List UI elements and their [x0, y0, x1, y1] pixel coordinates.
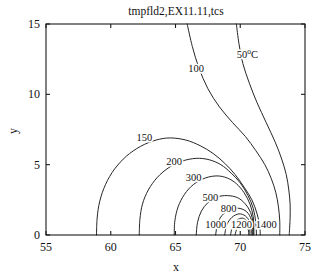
y-tick-label-10: 10	[28, 87, 40, 101]
axis-titles: x y	[6, 128, 179, 274]
contour-label-150: 150	[137, 132, 153, 143]
y-tick-label-15: 15	[28, 17, 40, 31]
axis-ticks	[46, 24, 305, 235]
contour-label-50-value: 50	[237, 49, 248, 60]
contour-label-300: 300	[186, 172, 202, 183]
contour-labels-layer: 50oC50oC10010015015020020030030050050080…	[137, 47, 277, 230]
contour-lines-layer	[97, 24, 291, 235]
chart-title: tmpfld2,EX11.11,tcs	[128, 5, 224, 18]
contour-plot-figure: tmpfld2,EX11.11,tcs 5560657075051015 50o…	[0, 0, 322, 278]
y-tick-label-0: 0	[34, 228, 40, 242]
axes-layer	[46, 24, 305, 235]
y-axis-label: y	[6, 128, 20, 134]
contour-label-100: 100	[188, 63, 204, 74]
contour-label-800: 800	[221, 203, 237, 214]
y-tick-label-5: 5	[34, 158, 40, 172]
chart-title-group: tmpfld2,EX11.11,tcs	[128, 5, 224, 18]
x-tick-label-70: 70	[234, 240, 246, 254]
x-tick-label-55: 55	[40, 240, 52, 254]
contour-label-1400: 1400	[256, 219, 277, 230]
x-tick-label-75: 75	[299, 240, 311, 254]
contour-label-1000: 1000	[205, 219, 226, 230]
x-tick-label-65: 65	[170, 240, 182, 254]
contour-label-1200: 1200	[231, 219, 252, 230]
contour-label-200: 200	[166, 156, 182, 167]
contour-label-500: 500	[203, 192, 219, 203]
plot-frame	[46, 24, 305, 235]
x-axis-label: x	[173, 260, 179, 274]
contour-plot-svg: tmpfld2,EX11.11,tcs 5560657075051015 50o…	[0, 0, 322, 278]
contour-label-50-unit: C	[251, 49, 258, 60]
x-tick-label-60: 60	[105, 240, 117, 254]
